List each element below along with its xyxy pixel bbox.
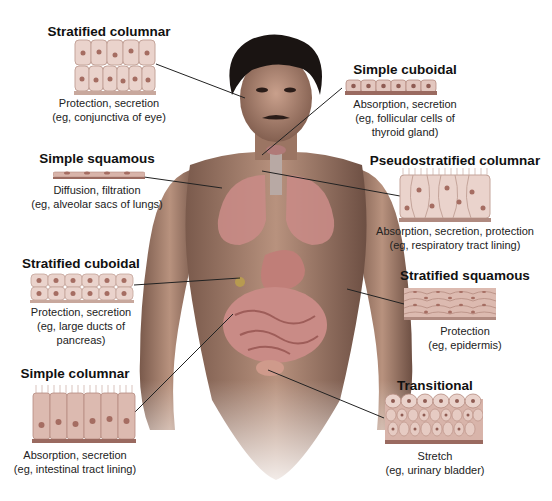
bladder [256,360,284,376]
tissue-title: Stratified cuboidal [6,256,156,271]
trachea [270,150,282,195]
tissue-label-stratified-squamous: Stratified squamous [380,268,550,283]
tissue-title: Transitional [360,378,510,393]
tissue-example: (eg, respiratory tract lining) [355,238,552,252]
cell-image-stratified-squamous [404,288,496,320]
tissue-desc-stratified-cuboidal: Protection, secretion (eg, large ducts o… [6,305,156,347]
tissue-function: Absorption, secretion, protection [355,224,552,238]
tissue-label-simple-columnar: Simple columnar [0,366,150,381]
tissue-title: Pseudostratified columnar [360,153,550,168]
tissue-example: (eg, urinary bladder) [360,463,510,477]
cell-image-simple-squamous [53,170,145,180]
tissue-label-simple-squamous: Simple squamous [22,151,172,166]
tissue-label-pseudostratified-columnar: Pseudostratified columnar [360,153,550,168]
tissue-desc-stratified-squamous: Protection (eg, epidermis) [380,324,550,352]
tissue-title: Stratified columnar [34,24,184,39]
tissue-label-simple-cuboidal: Simple cuboidal [330,62,480,77]
cell-image-simple-cuboidal [345,79,437,95]
intestines [223,287,327,363]
tissue-title: Simple squamous [22,151,172,166]
tissue-label-stratified-columnar: Stratified columnar [34,24,184,39]
tissue-function: Protection, secretion [34,96,184,110]
tissue-function: Protection, secretion [6,305,156,319]
cell-image-stratified-columnar [74,39,156,95]
tissue-example: (eg, conjunctiva of eye) [34,110,184,124]
tissue-function: Protection [380,324,550,338]
cell-image-simple-columnar [32,385,136,445]
tissue-example: thyroid gland) [330,125,480,139]
tissue-desc-pseudostratified-columnar: Absorption, secretion, protection (eg, r… [355,224,552,252]
tissue-desc-stratified-columnar: Protection, secretion (eg, conjunctiva o… [34,96,184,124]
tissue-example: (eg, intestinal tract lining) [0,462,150,476]
tissue-function: Diffusion, filtration [12,183,182,197]
tissue-title: Simple columnar [0,366,150,381]
tissue-example: (eg, epidermis) [380,338,550,352]
tissue-desc-simple-squamous: Diffusion, filtration (eg, alveolar sacs… [12,183,182,211]
tissue-title: Simple cuboidal [330,62,480,77]
tissue-example: (eg, follicular cells of [330,111,480,125]
tissue-desc-simple-cuboidal: Absorption, secretion (eg, follicular ce… [330,97,480,139]
tissue-label-transitional: Transitional [360,378,510,393]
tissue-example: (eg, alveolar sacs of lungs) [12,197,182,211]
tissue-title: Stratified squamous [380,268,550,283]
tissue-function: Absorption, secretion [330,97,480,111]
tissue-desc-transitional: Stretch (eg, urinary bladder) [360,449,510,477]
tissue-label-stratified-cuboidal: Stratified cuboidal [6,256,156,271]
tissue-example: (eg, large ducts of [6,319,156,333]
cell-image-pseudostratified-columnar [399,168,491,222]
thyroid [266,145,286,155]
tissue-desc-simple-columnar: Absorption, secretion (eg, intestinal tr… [0,448,150,476]
tissue-example: pancreas) [6,333,156,347]
tissue-function: Stretch [360,449,510,463]
cell-image-transitional [385,393,483,445]
tissue-function: Absorption, secretion [0,448,150,462]
cell-image-stratified-cuboidal [30,273,134,303]
pancreas [235,277,245,287]
